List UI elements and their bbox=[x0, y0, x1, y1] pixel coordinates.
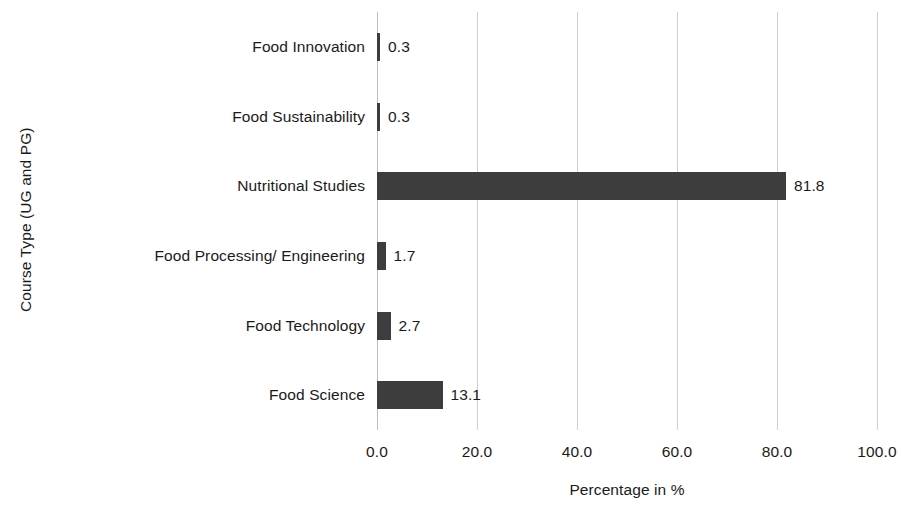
gridline-80-0 bbox=[777, 12, 778, 430]
x-tick-label: 100.0 bbox=[857, 444, 896, 460]
x-tick-label: 80.0 bbox=[762, 444, 793, 460]
category-label: Food Processing/ Engineering bbox=[30, 248, 365, 264]
bar bbox=[377, 103, 380, 131]
bar bbox=[377, 312, 391, 340]
x-tick-label: 20.0 bbox=[462, 444, 493, 460]
bar-value-label: 81.8 bbox=[794, 178, 825, 194]
x-tick-label: 40.0 bbox=[562, 444, 593, 460]
x-tick-label: 0.0 bbox=[366, 444, 388, 460]
category-label-column: Food InnovationFood SustainabilityNutrit… bbox=[30, 12, 365, 430]
bar-value-label: 13.1 bbox=[451, 387, 482, 403]
bar bbox=[377, 172, 786, 200]
category-label: Food Innovation bbox=[30, 39, 365, 55]
category-label: Food Technology bbox=[30, 318, 365, 334]
bar-value-label: 0.3 bbox=[388, 109, 410, 125]
bar bbox=[377, 381, 443, 409]
gridline-20-0 bbox=[477, 12, 478, 430]
bar-value-label: 1.7 bbox=[394, 248, 416, 264]
gridline-0-0 bbox=[377, 12, 378, 430]
gridline-60-0 bbox=[677, 12, 678, 430]
bar-value-label: 2.7 bbox=[399, 318, 421, 334]
category-label: Nutritional Studies bbox=[30, 178, 365, 194]
bar bbox=[377, 242, 386, 270]
bar-chart: Course Type (UG and PG) Food InnovationF… bbox=[0, 0, 901, 516]
x-axis-title: Percentage in % bbox=[377, 482, 877, 498]
gridline-100-0 bbox=[877, 12, 878, 430]
gridline-40-0 bbox=[577, 12, 578, 430]
category-label: Food Sustainability bbox=[30, 109, 365, 125]
category-label: Food Science bbox=[30, 387, 365, 403]
bar-value-label: 0.3 bbox=[388, 39, 410, 55]
plot-area: 0.30.381.81.72.713.1 bbox=[377, 12, 877, 430]
bar bbox=[377, 33, 380, 61]
x-axis-tick-labels: 0.020.040.060.080.0100.0 bbox=[377, 444, 877, 466]
x-tick-label: 60.0 bbox=[662, 444, 693, 460]
